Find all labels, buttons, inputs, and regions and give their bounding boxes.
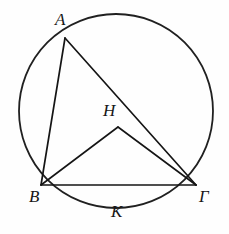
vertex-label-gamma: Γ (199, 188, 209, 205)
geometry-figure: A B Γ H K (0, 0, 229, 234)
segment-B-H (41, 127, 118, 185)
vertex-label-A: A (55, 11, 65, 28)
vertex-label-H: H (103, 102, 115, 119)
arc-label-K: K (111, 203, 122, 220)
vertex-label-B: B (29, 188, 39, 205)
segment-A-B (41, 38, 65, 185)
segment-H-gamma (118, 127, 196, 185)
segment-A-gamma (65, 38, 196, 185)
